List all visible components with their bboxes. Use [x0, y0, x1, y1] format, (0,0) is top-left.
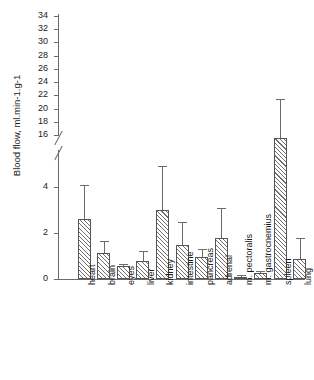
error-bar-cap-liver [139, 251, 148, 252]
error-bar-cap-spleen [276, 99, 285, 100]
error-bar-cap-kidney [158, 166, 167, 167]
y-axis-title: Blood flow, ml.min-1.g-1 [11, 36, 22, 216]
x-axis-label-pancreas: pancreas [206, 248, 215, 285]
error-bar-stem-intestine [182, 222, 183, 245]
error-bar-stem-lung [300, 238, 301, 260]
y-tick-label-18: 18 [26, 117, 48, 126]
error-bar-stem-liver [143, 251, 144, 260]
x-axis-label-heart: heart [88, 264, 97, 285]
error-bar-cap-intestine [178, 222, 187, 223]
error-bar-stem-pancreas [202, 249, 203, 257]
y-axis-line-upper [58, 14, 59, 136]
y-tick-label-34: 34 [26, 11, 48, 20]
error-bar-cap-heart [80, 185, 89, 186]
error-bar-cap-brain [100, 241, 109, 242]
x-axis-label-adrenal: adrenal [225, 255, 234, 285]
error-bar-stem-spleen [280, 99, 281, 138]
y-tick-label-16: 16 [26, 130, 48, 139]
error-bar-stem-adrenal [221, 208, 222, 238]
x-axis-label-kidney: kidney [166, 259, 175, 285]
error-bar-cap-eyes [119, 264, 128, 265]
error-bar-stem-kidney [162, 166, 163, 210]
blood-flow-bar-chart: Blood flow, ml.min-1.g-1 161820222426283… [0, 0, 314, 380]
y-tick-label-0: 0 [26, 274, 48, 283]
error-bar-stem-heart [84, 185, 85, 220]
x-axis-label-eyes: eyes [127, 266, 136, 285]
error-bar-stem-brain [104, 241, 105, 253]
y-tick-label-4: 4 [26, 182, 48, 191]
x-axis-label-brain: brain [108, 265, 117, 285]
y-tick-label-30: 30 [26, 37, 48, 46]
x-axis-label-m-gastrocnemius: m. gastrocnemius [264, 214, 273, 285]
x-axis-label-lung: lung [304, 268, 313, 285]
y-tick-label-32: 32 [26, 24, 48, 33]
error-bar-cap-lung [296, 238, 305, 239]
x-axis-label-liver: liver [147, 268, 156, 285]
y-tick-label-24: 24 [26, 77, 48, 86]
error-bar-cap-adrenal [217, 208, 226, 209]
y-tick-label-2: 2 [26, 228, 48, 237]
x-axis-label-intestine: intestine [186, 251, 195, 285]
x-axis-label-spleen: spleen [284, 258, 293, 285]
y-tick-label-20: 20 [26, 104, 48, 113]
y-tick-label-22: 22 [26, 90, 48, 99]
y-axis-line-lower [58, 150, 59, 279]
y-tick-label-26: 26 [26, 64, 48, 73]
x-axis-label-m-pectoralis: m. pectoralis [245, 234, 254, 285]
y-tick-label-28: 28 [26, 51, 48, 60]
